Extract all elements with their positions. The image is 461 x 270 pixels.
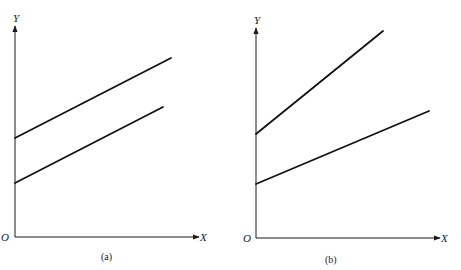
caption-a: (a) [101, 251, 112, 263]
upper-line-a [15, 58, 171, 138]
figure: Y X O (a) Y X O (b) [0, 0, 461, 270]
x-label-a: X [199, 231, 208, 243]
lower-line-b [256, 111, 429, 184]
y-label-b: Y [254, 14, 262, 26]
x-label-b: X [440, 232, 449, 244]
upper-line-b [256, 31, 383, 134]
lower-line-a [15, 107, 163, 183]
figure-canvas: Y X O (a) Y X O (b) [0, 0, 461, 270]
origin-label-b: O [243, 232, 251, 244]
y-label-a: Y [13, 12, 21, 24]
caption-b: (b) [325, 254, 337, 266]
panel-b: Y X O (b) [243, 14, 449, 266]
panel-a: Y X O (a) [1, 12, 208, 263]
origin-label-a: O [1, 231, 9, 243]
